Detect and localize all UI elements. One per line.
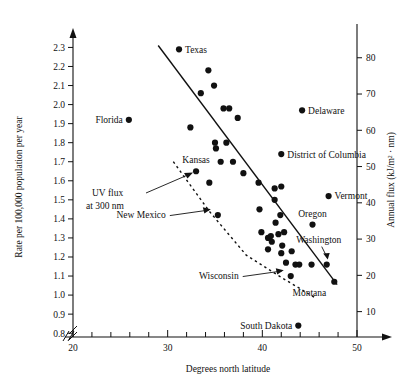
y-axis-left-tick-label: 1.0 [53, 290, 65, 300]
data-point [211, 82, 217, 88]
data-point [296, 262, 302, 268]
point-label: Montana [292, 288, 327, 298]
data-point [230, 159, 236, 165]
data-point [220, 105, 226, 111]
data-point-new-mexico [215, 212, 221, 218]
point-label: Vermont [335, 191, 368, 201]
data-points-group [126, 46, 338, 328]
point-label: Kansas [182, 155, 210, 165]
x-axis-tick-label: 50 [352, 343, 362, 353]
data-point [308, 262, 314, 268]
y-axis-left-tick-label: 1.2 [53, 252, 65, 262]
data-point [256, 206, 262, 212]
y-axis-left-tick-label: 2.0 [53, 100, 65, 110]
x-axis-tick-label: 30 [163, 343, 173, 353]
y-axis-right-tick-label: 40 [366, 198, 376, 208]
point-label: New Mexico [116, 210, 166, 220]
x-axis-arrow [382, 334, 392, 341]
y-axis-left-tick-label: 0.8 [53, 329, 65, 339]
point-label: Washington [296, 235, 341, 245]
data-point [278, 250, 284, 256]
data-point-washington [324, 262, 330, 268]
uv-flux-curve [173, 162, 315, 298]
data-point [240, 170, 246, 176]
data-point [272, 197, 278, 203]
y-axis-right-tick-label: 80 [366, 53, 376, 63]
uv-flux-leader-arrowhead [184, 173, 193, 179]
axes-group [63, 24, 392, 341]
x-axis-ticks: 20304050 [68, 330, 362, 353]
y-axis-right-tick-label: 70 [366, 89, 376, 99]
y-axis-right-tick-label: 30 [366, 234, 376, 244]
x-axis-tick-label: 20 [68, 343, 78, 353]
point-label: Wisconsin [199, 271, 239, 281]
y-axis-right-title: Annual flux (kJ/m² · nm) [386, 132, 397, 228]
data-point [279, 242, 285, 248]
uv-flux-annotation-line1: UV flux [92, 188, 123, 198]
y-axis-left-tick-label: 1.3 [53, 233, 65, 243]
y-axis-left-tick-label: 1.9 [53, 119, 65, 129]
y-axis-right-ticks: 1020304050607080 [357, 53, 376, 317]
data-point-wisconsin [288, 273, 294, 279]
data-point [272, 220, 278, 226]
uv-flux-leader-line [146, 174, 190, 193]
point-leader-arrowhead [276, 268, 284, 274]
data-point [218, 159, 224, 165]
y-axis-left-tick-label: 2.3 [53, 43, 65, 53]
data-point [275, 231, 281, 237]
x-axis-tick-label: 40 [258, 343, 268, 353]
point-labels-group: FloridaTexasKansasDistrict of ColumbiaDe… [95, 45, 367, 331]
uv-flux-dashed-curve [173, 162, 315, 298]
uv-flux-annotation-line2: at 300 nm [86, 201, 125, 211]
y-axis-left-tick-label: 1.8 [53, 138, 65, 148]
y-axis-left-arrow [70, 28, 77, 38]
chart-svg: 0.80.91.01.11.21.31.41.51.61.71.81.92.02… [0, 0, 404, 387]
data-point-vermont [326, 193, 332, 199]
data-point [226, 105, 232, 111]
y-axis-left-tick-label: 1.7 [53, 157, 65, 167]
data-point [205, 67, 211, 73]
data-point [213, 145, 219, 151]
data-point [268, 233, 274, 239]
data-point [212, 140, 218, 146]
y-axis-right-tick-label: 10 [366, 307, 376, 317]
data-point-oregon [309, 222, 315, 228]
data-point-delaware [299, 107, 305, 113]
data-point [272, 185, 278, 191]
y-axis-left-tick-label: 1.4 [53, 214, 65, 224]
point-leader-arrowhead [323, 253, 330, 260]
data-point-district-of-columbia [278, 151, 284, 157]
data-point [265, 246, 271, 252]
x-axis-title: Degrees north latitude [186, 364, 270, 374]
y-axis-left-tick-label: 2.2 [53, 62, 65, 72]
data-point-kansas [193, 168, 199, 174]
data-point [223, 140, 229, 146]
point-label: Florida [95, 115, 123, 125]
data-point [198, 90, 204, 96]
uv-flux-annotation: UV flux at 300 nm [86, 173, 193, 212]
data-point [206, 180, 212, 186]
data-point-texas [176, 46, 182, 52]
point-label: South Dakota [240, 321, 293, 331]
y-axis-left-tick-label: 1.6 [53, 176, 65, 186]
y-axis-left-tick-label: 0.9 [53, 310, 65, 320]
data-point [278, 183, 284, 189]
y-axis-right-tick-label: 20 [366, 271, 376, 281]
data-point [235, 115, 241, 121]
point-label: Oregon [298, 209, 327, 219]
y-axis-left-title: Rate per 100,000 population per year [14, 115, 24, 257]
y-axis-left-tick-label: 2.1 [53, 81, 65, 91]
y-axis-left-tick-label: 1.5 [53, 195, 65, 205]
point-leader-line [170, 210, 209, 216]
point-leader-line [243, 271, 282, 277]
point-label: District of Columbia [287, 150, 366, 160]
y-axis-right-tick-label: 50 [366, 162, 376, 172]
data-point [277, 212, 283, 218]
data-point-montana [331, 279, 337, 285]
point-label: Delaware [308, 106, 344, 116]
scatter-chart-figure: 0.80.91.01.11.21.31.41.51.61.71.81.92.02… [0, 0, 404, 387]
data-point [187, 124, 193, 130]
data-point [258, 229, 264, 235]
data-point-florida [126, 117, 132, 123]
y-axis-right-tick-label: 60 [366, 126, 376, 136]
